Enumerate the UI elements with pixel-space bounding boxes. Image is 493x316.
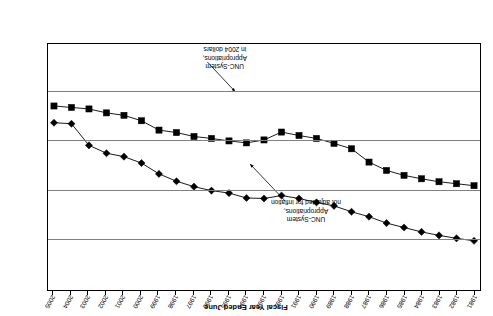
x-axis-tickmark: [386, 291, 387, 295]
data-point-marker: [400, 224, 407, 231]
x-tick-label: 1990: [308, 294, 321, 310]
data-point-marker: [470, 237, 477, 244]
x-tick-label: 1999: [149, 294, 162, 310]
x-axis-tickmark: [105, 291, 106, 295]
data-point-marker: [383, 167, 389, 173]
x-axis-tickmark: [333, 291, 334, 295]
gridline: [48, 41, 480, 42]
data-point-marker: [156, 127, 162, 133]
x-axis-tickmark: [263, 291, 264, 295]
gridline: [48, 140, 480, 141]
x-tick-label: 1989: [325, 294, 338, 310]
x-axis-tickmark: [122, 291, 123, 295]
data-point-marker: [103, 110, 109, 116]
x-tick-label: 1985: [396, 294, 409, 310]
data-point-marker: [331, 140, 337, 146]
x-axis-tickmark: [298, 291, 299, 295]
gridline: [48, 190, 480, 191]
x-axis-tickmark: [52, 291, 53, 295]
x-tick-label: 1986: [378, 294, 391, 310]
data-point-marker: [51, 103, 57, 109]
x-tick-label: 2004: [61, 294, 74, 310]
data-point-marker: [296, 132, 302, 138]
data-point-marker: [191, 133, 197, 139]
x-axis-tickmark: [421, 291, 422, 295]
y-axis-ticks: 05001,0001,5002,0002,500: [481, 43, 493, 291]
data-point-marker: [401, 172, 407, 178]
data-point-marker: [121, 112, 127, 118]
x-axis-tickmark: [175, 291, 176, 295]
annotation-nominal-series: UNC-System Appropriations, not adjusted …: [271, 198, 341, 223]
data-point-marker: [120, 153, 127, 160]
x-axis-tickmark: [369, 291, 370, 295]
x-axis-tickmark: [351, 291, 352, 295]
plot-svg: [48, 44, 480, 290]
leader-line-nominal: [250, 164, 285, 201]
gridline: [48, 239, 480, 240]
data-point-marker: [418, 228, 425, 235]
data-point-marker: [453, 235, 460, 242]
x-tick-label: 2005: [44, 294, 57, 310]
data-point-marker: [173, 178, 180, 185]
x-tick-label: 1981: [466, 294, 479, 310]
data-point-marker: [471, 183, 477, 189]
data-point-marker: [436, 179, 442, 185]
x-axis-tickmark: [474, 291, 475, 295]
x-axis-tickmark: [87, 291, 88, 295]
x-axis-tickmark: [439, 291, 440, 295]
x-tick-label: 2003: [79, 294, 92, 310]
series-line: [54, 106, 474, 186]
x-axis-tickmark: [245, 291, 246, 295]
data-point-marker: [348, 208, 355, 215]
x-tick-label: 2002: [97, 294, 110, 310]
gridline: [48, 91, 480, 92]
x-tick-label: 1983: [431, 294, 444, 310]
data-point-marker: [138, 118, 144, 124]
data-point-marker: [435, 232, 442, 239]
data-point-marker: [243, 194, 250, 201]
x-tick-label: 2001: [114, 294, 127, 310]
x-tick-label: 1991: [290, 294, 303, 310]
chart-figure: Millions of Dollars 05001,0001,5002,0002…: [0, 0, 493, 316]
x-axis-tickmark: [316, 291, 317, 295]
x-axis-tickmark: [456, 291, 457, 295]
x-axis-tickmark: [210, 291, 211, 295]
data-point-marker: [155, 170, 162, 177]
data-point-marker: [383, 220, 390, 227]
data-point-marker: [173, 129, 179, 135]
x-axis-title: Fiscal Year Ended June: [204, 303, 288, 312]
x-tick-label: 2000: [132, 294, 145, 310]
data-point-marker: [278, 129, 284, 135]
data-point-marker: [138, 159, 145, 166]
x-axis-tickmark: [404, 291, 405, 295]
x-tick-label: 1998: [167, 294, 180, 310]
data-point-marker: [86, 106, 92, 112]
x-tick-label: 1997: [185, 294, 198, 310]
x-axis-tickmark: [70, 291, 71, 295]
x-tick-label: 1982: [448, 294, 461, 310]
x-axis-tickmark: [158, 291, 159, 295]
annotation-real-series: UNC-System Appropriations, in 2004 dolla…: [203, 45, 247, 70]
data-point-marker: [68, 104, 74, 110]
x-tick-label: 1988: [343, 294, 356, 310]
data-point-marker: [50, 119, 57, 126]
x-axis-tickmark: [281, 291, 282, 295]
x-axis-tickmark: [140, 291, 141, 295]
x-tick-label: 1987: [360, 294, 373, 310]
x-axis-tickmark: [193, 291, 194, 295]
x-axis-tickmark: [228, 291, 229, 295]
data-point-marker: [260, 195, 267, 202]
data-point-marker: [418, 176, 424, 182]
plot-area: [47, 43, 481, 291]
data-point-marker: [366, 159, 372, 165]
data-point-marker: [365, 213, 372, 220]
x-tick-label: 1984: [413, 294, 426, 310]
data-point-marker: [103, 150, 110, 157]
data-point-marker: [348, 146, 354, 152]
data-point-marker: [453, 181, 459, 187]
